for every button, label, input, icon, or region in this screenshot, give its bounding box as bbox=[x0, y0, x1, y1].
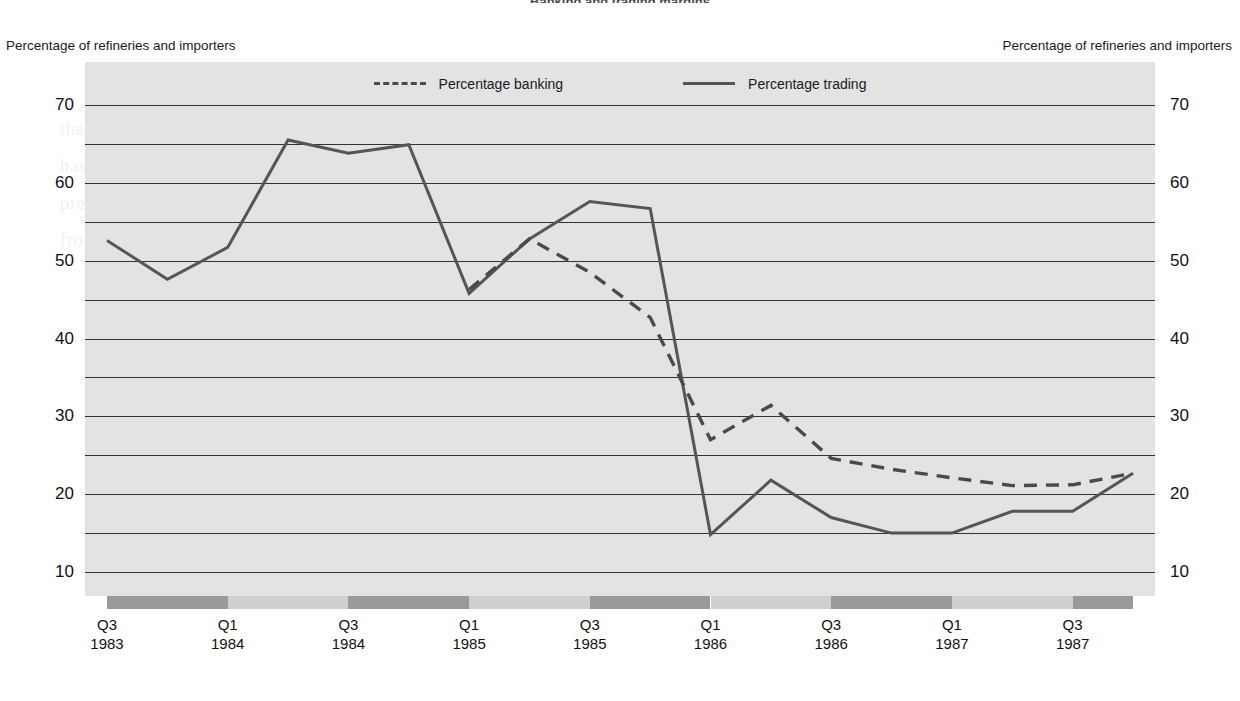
band-segment-8 bbox=[1073, 596, 1133, 609]
x-axis-labels: Q31983Q11984Q31984Q11985Q31985Q11986Q319… bbox=[85, 615, 1155, 675]
x-tick-year: 1983 bbox=[90, 634, 123, 653]
plot-canvas bbox=[85, 105, 1155, 572]
dashed-line-icon bbox=[374, 82, 426, 85]
y-tick-right-20: 20 bbox=[1170, 484, 1230, 504]
gridline-10 bbox=[85, 572, 1155, 573]
x-tick-year: 1987 bbox=[1056, 634, 1089, 653]
x-axis-band-strip bbox=[85, 596, 1155, 609]
x-tick-quarter: Q3 bbox=[580, 616, 600, 633]
y-tick-left-10: 10 bbox=[14, 562, 74, 582]
band-segment-0 bbox=[107, 596, 228, 609]
x-tick-quarter: Q1 bbox=[942, 616, 962, 633]
y-tick-right-30: 30 bbox=[1170, 406, 1230, 426]
x-tick-q1-1985: Q11985 bbox=[452, 615, 485, 653]
band-segment-4 bbox=[590, 596, 711, 609]
y-tick-right-10: 10 bbox=[1170, 562, 1230, 582]
plot-area: Percentage banking Percentage trading bbox=[85, 62, 1155, 596]
x-tick-year: 1986 bbox=[694, 634, 727, 653]
x-tick-year: 1985 bbox=[573, 634, 606, 653]
y-tick-left-30: 30 bbox=[14, 406, 74, 426]
y-tick-right-60: 60 bbox=[1170, 173, 1230, 193]
x-tick-year: 1987 bbox=[935, 634, 968, 653]
x-tick-q1-1984: Q11984 bbox=[211, 615, 244, 653]
x-tick-year: 1984 bbox=[332, 634, 365, 653]
y-tick-left-20: 20 bbox=[14, 484, 74, 504]
series-lines bbox=[85, 105, 1155, 572]
x-tick-q1-1987: Q11987 bbox=[935, 615, 968, 653]
band-segment-3 bbox=[469, 596, 590, 609]
x-tick-q3-1983: Q31983 bbox=[90, 615, 123, 653]
legend-item-trading: Percentage trading bbox=[683, 76, 866, 92]
x-tick-year: 1986 bbox=[815, 634, 848, 653]
x-tick-quarter: Q3 bbox=[338, 616, 358, 633]
y-tick-right-40: 40 bbox=[1170, 329, 1230, 349]
y-tick-left-70: 70 bbox=[14, 95, 74, 115]
y-tick-left-50: 50 bbox=[14, 251, 74, 271]
y-tick-right-70: 70 bbox=[1170, 95, 1230, 115]
y-tick-left-40: 40 bbox=[14, 329, 74, 349]
chart-legend: Percentage banking Percentage trading bbox=[85, 62, 1155, 105]
chart-figure: Banking and trading margins Percentage o… bbox=[0, 0, 1240, 701]
solid-line-icon bbox=[683, 82, 735, 85]
band-segment-6 bbox=[831, 596, 952, 609]
left-axis-caption: Percentage of refineries and importers bbox=[6, 38, 236, 53]
band-segment-2 bbox=[348, 596, 469, 609]
legend-item-banking: Percentage banking bbox=[374, 76, 564, 92]
figure-title: Banking and trading margins bbox=[0, 0, 1240, 3]
legend-label-banking: Percentage banking bbox=[439, 76, 564, 92]
band-segment-7 bbox=[952, 596, 1073, 609]
x-tick-quarter: Q1 bbox=[700, 616, 720, 633]
x-tick-q3-1986: Q31986 bbox=[815, 615, 848, 653]
x-tick-year: 1984 bbox=[211, 634, 244, 653]
y-tick-right-50: 50 bbox=[1170, 251, 1230, 271]
band-segment-1 bbox=[228, 596, 349, 609]
x-tick-quarter: Q3 bbox=[97, 616, 117, 633]
x-tick-q1-1986: Q11986 bbox=[694, 615, 727, 653]
band-segment-5 bbox=[711, 596, 832, 609]
right-axis-caption: Percentage of refineries and importers bbox=[1002, 38, 1232, 53]
x-tick-year: 1985 bbox=[452, 634, 485, 653]
x-tick-q3-1987: Q31987 bbox=[1056, 615, 1089, 653]
x-tick-q3-1985: Q31985 bbox=[573, 615, 606, 653]
y-tick-left-60: 60 bbox=[14, 173, 74, 193]
x-tick-quarter: Q3 bbox=[821, 616, 841, 633]
x-tick-quarter: Q3 bbox=[1063, 616, 1083, 633]
x-tick-quarter: Q1 bbox=[459, 616, 479, 633]
series-line-percentage-banking bbox=[469, 239, 1133, 486]
x-tick-q3-1984: Q31984 bbox=[332, 615, 365, 653]
x-tick-quarter: Q1 bbox=[218, 616, 238, 633]
legend-label-trading: Percentage trading bbox=[748, 76, 866, 92]
series-line-percentage-trading bbox=[107, 140, 1133, 535]
